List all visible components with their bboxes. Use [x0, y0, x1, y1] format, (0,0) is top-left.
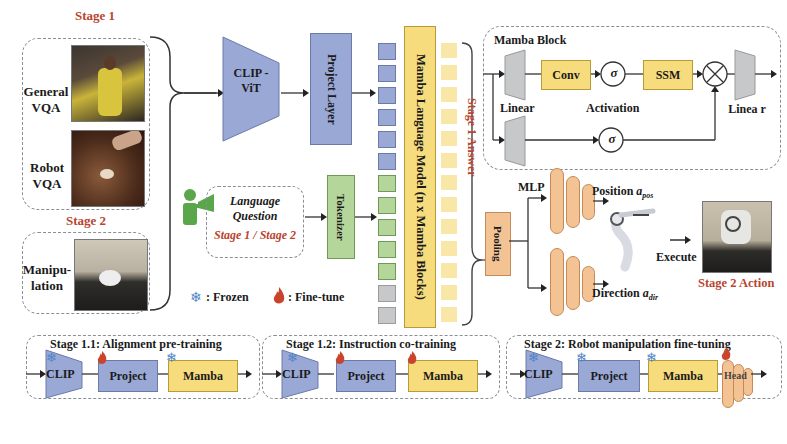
arrow-clip-to-project [281, 88, 311, 98]
flame-icon [334, 350, 346, 366]
legend-frozen: : Frozen [206, 290, 249, 305]
clip-vit-label: CLIP - ViT [226, 66, 276, 96]
stage2-action-image [702, 201, 772, 273]
player-figure [98, 68, 122, 116]
head-output-arrow [751, 370, 771, 380]
execute-arrow [670, 236, 692, 244]
mlp-layer [550, 248, 564, 316]
snowflake-icon: ❄ [46, 350, 57, 366]
linear-right-label: Linea r [728, 101, 766, 117]
mlp-layer [566, 176, 580, 228]
object-on-table [99, 270, 121, 286]
stage-2-clip-label: CLIP [524, 367, 553, 382]
mlp-label: MLP [518, 180, 545, 195]
token-visual [378, 109, 396, 126]
inputs-brace [148, 35, 188, 315]
stage-1-1-clip-label: CLIP [46, 367, 75, 382]
stage2-label: Stage 2 [66, 213, 106, 229]
snowflake-icon: ❄ [190, 289, 202, 306]
token-output [441, 197, 457, 212]
token-visual [378, 43, 396, 60]
direction-subscript: dir [649, 293, 658, 302]
token-output [441, 219, 457, 234]
stage-2-project-block: Project [578, 360, 640, 392]
mlp-layer [566, 256, 580, 310]
stage1-answer-label: Stage 1 Answer [462, 82, 480, 192]
stage1-label: Stage 1 [75, 8, 115, 24]
token-visual [378, 65, 396, 82]
snowflake-icon: ❄ [576, 350, 587, 366]
robot-vqa-image [71, 130, 145, 207]
general-vqa-label: General VQA [18, 84, 74, 116]
arrow-to-clip [184, 88, 224, 98]
token-output [441, 285, 457, 300]
stage-2-mamba-block: Mamba [648, 360, 718, 392]
token-text [378, 241, 396, 258]
general-vqa-image [71, 45, 145, 122]
token-output [441, 65, 457, 80]
stage-1-2-clip-label: CLIP [282, 367, 311, 382]
snowflake-icon: ❄ [528, 350, 539, 366]
stage2-action-label: Stage 2 Action [698, 276, 774, 291]
player-head [104, 56, 116, 70]
direction-text: Direction [592, 286, 640, 300]
linear-left-label: Linear [500, 101, 535, 116]
project-layer-block: Project Layer [310, 33, 352, 145]
flame-icon [720, 346, 732, 362]
conv-block: Conv [541, 60, 591, 90]
token-text [378, 197, 396, 214]
ssm-block: SSM [643, 60, 693, 90]
token-output [441, 175, 457, 190]
execute-label: Execute [656, 250, 697, 265]
pooling-block: Pooling [485, 212, 511, 276]
flame-icon [96, 350, 108, 366]
token-output [441, 43, 457, 58]
token-visual [378, 153, 396, 170]
legend-finetune: : Fine-tune [288, 290, 344, 305]
flame-icon [406, 350, 418, 366]
token-visual [378, 131, 396, 148]
token-output [441, 307, 457, 322]
snowflake-icon: ❄ [166, 350, 177, 366]
token-text [378, 175, 396, 192]
token-text [378, 263, 396, 280]
token-output [441, 109, 457, 124]
token-output [441, 241, 457, 256]
tokenizer-block: Tokenizer [327, 175, 355, 259]
stage-1-2-mamba-block: Mamba [408, 360, 478, 392]
position-subscript: pos [642, 191, 653, 200]
language-stages-label: Stage 1 / Stage 2 [208, 228, 302, 243]
token-visual [378, 87, 396, 104]
direction-output-label: Direction adir [592, 286, 658, 302]
stage-1-1-mamba-block: Mamba [168, 360, 238, 392]
robot-joint [725, 216, 741, 232]
snowflake-icon: ❄ [646, 350, 657, 366]
mlp-layer [550, 168, 564, 234]
token-output [441, 131, 457, 146]
token-output [441, 87, 457, 102]
manipulation-image [74, 239, 148, 311]
language-question-label: Language Question [210, 194, 300, 224]
head-label: Head [724, 370, 747, 381]
robot-vqa-label: Robot VQA [22, 160, 72, 192]
token-output [441, 153, 457, 168]
activation-label: Activation [586, 101, 639, 116]
token-output [441, 263, 457, 278]
flame-icon [272, 286, 286, 306]
robot-arm-object [111, 130, 144, 152]
mamba-block-title: Mamba Block [494, 33, 566, 48]
snowflake-icon: ❄ [287, 350, 298, 366]
mamba-language-model-block: Mamba Language Model (n x Mamba Blocks) [404, 26, 436, 328]
sigma-top-icon: σ [608, 65, 620, 81]
position-output-label: Position apos [592, 184, 653, 200]
plate-object [100, 169, 114, 179]
mamba-block-diagram [483, 50, 783, 150]
position-text: Position [592, 184, 633, 198]
manipulation-label: Manipu- lation [20, 262, 74, 294]
token-pad [378, 307, 396, 324]
sigma-bottom-icon: σ [606, 131, 618, 147]
pooling-to-mlp-arrows [509, 198, 554, 318]
token-text [378, 219, 396, 236]
token-pad [378, 285, 396, 302]
